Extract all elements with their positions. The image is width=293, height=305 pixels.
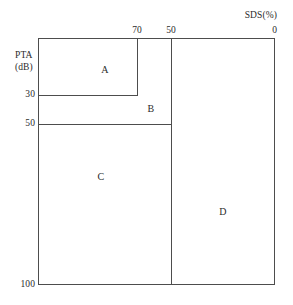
region-label-b: B xyxy=(148,103,155,114)
y-tick-label-30: 30 xyxy=(25,89,35,100)
y-axis-title-line1: PTA xyxy=(15,50,33,62)
x-tick-label-50: 50 xyxy=(166,25,176,36)
y-axis-title-line2: (dB) xyxy=(15,62,33,74)
classification-diagram: SDS(%) 70 50 0 PTA (dB) 30 50 100 A B C … xyxy=(0,0,293,305)
diagram-canvas xyxy=(0,0,293,305)
y-tick-label-50: 50 xyxy=(25,118,35,129)
x-tick-label-70: 70 xyxy=(132,25,142,36)
x-tick-label-0: 0 xyxy=(272,25,277,36)
y-tick-label-100: 100 xyxy=(20,279,35,290)
region-label-a: A xyxy=(101,64,108,75)
x-axis-title: SDS(%) xyxy=(245,10,277,22)
plot-frame xyxy=(39,39,275,285)
region-label-d: D xyxy=(219,206,226,217)
region-label-c: C xyxy=(98,171,105,182)
